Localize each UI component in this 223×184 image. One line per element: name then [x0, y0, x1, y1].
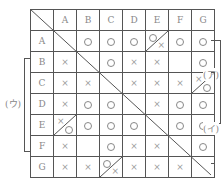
diagonal-cell — [169, 136, 192, 157]
result-cell: × — [146, 94, 169, 115]
cross-mark-icon: × — [153, 162, 161, 172]
split-result-cell: × — [100, 157, 122, 177]
results-grid: ABCDEFGA×B×××C××××××D××E×F×××G×××××× — [30, 9, 215, 178]
circle-mark-icon — [199, 38, 207, 46]
diagonal-cell — [123, 94, 146, 115]
diagonal-cell — [77, 52, 100, 73]
diagonal-cell — [100, 73, 123, 94]
column-header: B — [77, 10, 100, 31]
circle-mark-icon — [199, 59, 207, 67]
table-row: C×××××× — [31, 73, 215, 94]
circle-mark-icon — [176, 122, 184, 130]
bracket-i — [211, 72, 215, 164]
cross-mark-icon: × — [61, 162, 69, 172]
cross-mark-icon: × — [176, 78, 184, 88]
cross-mark-icon: × — [61, 57, 69, 67]
result-cell: × — [77, 73, 100, 94]
result-cell — [169, 52, 192, 73]
cross-mark-icon: × — [153, 141, 161, 151]
cross-mark-icon: × — [195, 74, 203, 84]
result-cell: × — [54, 136, 77, 157]
result-cell: × — [54, 157, 77, 178]
result-cell: × — [123, 157, 146, 178]
result-cell: × — [100, 157, 123, 178]
circle-mark-icon — [130, 122, 138, 130]
result-cell: × — [146, 136, 169, 157]
cross-mark-icon: × — [130, 162, 138, 172]
cross-mark-icon: × — [130, 78, 138, 88]
result-cell — [100, 31, 123, 52]
result-cell: × — [54, 115, 77, 136]
result-cell: × — [123, 73, 146, 94]
row-header: G — [31, 157, 54, 178]
split-result-cell: × — [146, 31, 168, 51]
circle-mark-icon — [149, 34, 157, 42]
cross-mark-icon: × — [157, 40, 165, 50]
cross-mark-icon: × — [153, 99, 161, 109]
column-header: G — [192, 10, 215, 31]
split-result-cell: × — [54, 115, 76, 135]
diagonal-cell — [146, 115, 169, 136]
bracket-u-label: (ウ) — [5, 97, 21, 110]
row-header: B — [31, 52, 54, 73]
result-cell — [169, 94, 192, 115]
circle-mark-icon — [199, 143, 207, 151]
circle-mark-icon — [130, 38, 138, 46]
result-cell: × — [146, 52, 169, 73]
circle-mark-icon — [84, 38, 92, 46]
result-cell: × — [169, 157, 192, 178]
row-header: E — [31, 115, 54, 136]
result-cell: × — [169, 73, 192, 94]
circle-mark-icon — [199, 101, 207, 109]
row-header: A — [31, 31, 54, 52]
result-cell — [77, 31, 100, 52]
table-row: A× — [31, 31, 215, 52]
row-header: F — [31, 136, 54, 157]
cross-mark-icon: × — [176, 162, 184, 172]
cross-mark-icon: × — [84, 162, 92, 172]
cross-mark-icon: × — [130, 141, 138, 151]
circle-mark-icon — [107, 101, 115, 109]
circle-mark-icon — [107, 122, 115, 130]
result-cell: × — [146, 157, 169, 178]
cross-mark-icon: × — [57, 116, 65, 126]
result-cell — [100, 136, 123, 157]
result-cell: × — [123, 52, 146, 73]
result-cell: × — [77, 157, 100, 178]
result-cell — [169, 115, 192, 136]
result-cell — [77, 136, 100, 157]
result-cell — [100, 94, 123, 115]
row-header: C — [31, 73, 54, 94]
column-header: A — [54, 10, 77, 31]
table-row: G×××××× — [31, 157, 215, 178]
result-cell: × — [146, 73, 169, 94]
circle-mark-icon — [176, 38, 184, 46]
corner-cell — [31, 10, 54, 31]
table-row: D×× — [31, 94, 215, 115]
result-cell: × — [54, 73, 77, 94]
result-cell: × — [146, 31, 169, 52]
circle-mark-icon — [84, 101, 92, 109]
circle-mark-icon — [107, 59, 115, 67]
cross-mark-icon: × — [61, 141, 69, 151]
result-cell — [123, 31, 146, 52]
circle-mark-icon — [203, 84, 211, 92]
result-cell — [169, 31, 192, 52]
cross-mark-icon: × — [61, 99, 69, 109]
cross-mark-icon: × — [111, 166, 119, 176]
column-header: E — [146, 10, 169, 31]
table-row: B××× — [31, 52, 215, 73]
result-cell: × — [54, 52, 77, 73]
result-cell: × — [123, 136, 146, 157]
circle-mark-icon — [107, 38, 115, 46]
diagonal-cell — [54, 31, 77, 52]
circle-mark-icon — [84, 122, 92, 130]
circle-mark-icon — [176, 101, 184, 109]
column-header: F — [169, 10, 192, 31]
result-cell — [123, 115, 146, 136]
result-cell — [100, 52, 123, 73]
cross-mark-icon: × — [84, 78, 92, 88]
result-cell — [100, 115, 123, 136]
cross-mark-icon: × — [153, 78, 161, 88]
bracket-u — [24, 58, 31, 152]
